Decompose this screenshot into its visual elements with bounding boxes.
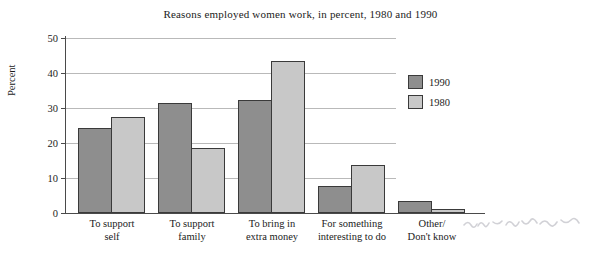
x-category-label-4-line1: Other/ [377, 218, 487, 231]
y-tick-mark-20 [61, 143, 66, 144]
y-tick-label-50: 50 [48, 33, 59, 44]
gridline-50 [65, 38, 396, 39]
y-tick-label-0: 0 [53, 208, 58, 219]
chart-figure: Reasons employed women work, in percent,… [0, 0, 601, 254]
bar-1980-1 [191, 148, 225, 213]
bar-1980-4 [431, 209, 465, 213]
bar-1980-3 [351, 165, 385, 213]
y-axis-line [65, 36, 66, 213]
legend-label-1990: 1990 [429, 77, 450, 88]
bar-1990-2 [238, 100, 272, 213]
y-tick-mark-40 [61, 73, 66, 74]
legend-swatch-1980 [408, 95, 423, 109]
legend-item-1990: 1990 [408, 72, 450, 92]
y-tick-label-30: 30 [48, 103, 59, 114]
bar-1980-0 [111, 117, 145, 213]
y-tick-label-20: 20 [48, 138, 59, 149]
plot-area: 50 40 30 20 10 0 [65, 36, 485, 213]
bar-1990-1 [158, 103, 192, 213]
bar-1990-4 [398, 201, 432, 213]
legend-label-1980: 1980 [429, 97, 450, 108]
legend-item-1980: 1980 [408, 92, 450, 112]
legend-swatch-1990 [408, 75, 423, 89]
bar-1990-3 [318, 186, 352, 213]
bar-1990-0 [78, 128, 112, 213]
y-tick-label-10: 10 [48, 173, 59, 184]
y-tick-label-40: 40 [48, 68, 59, 79]
y-tick-mark-30 [61, 108, 66, 109]
y-axis-title: Percent [6, 65, 17, 97]
gridline-30 [65, 108, 396, 109]
x-axis-line [65, 213, 485, 214]
y-tick-mark-10 [61, 178, 66, 179]
chart-title: Reasons employed women work, in percent,… [0, 8, 601, 20]
chart-legend: 1990 1980 [408, 72, 450, 112]
x-category-label-4-line2: Don't know [377, 231, 487, 244]
gridline-40 [65, 73, 396, 74]
x-category-label-4: Other/ Don't know [377, 218, 487, 243]
y-tick-mark-50 [61, 38, 66, 39]
bar-1980-2 [271, 61, 305, 213]
y-tick-mark-0 [61, 213, 66, 214]
